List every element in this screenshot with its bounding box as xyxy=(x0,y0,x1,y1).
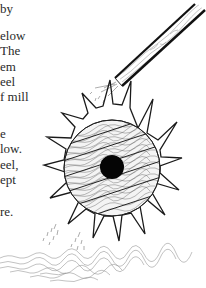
axle-hole xyxy=(100,155,124,179)
falling-water-bottom xyxy=(43,224,84,250)
book-page: by elow The em eel f mill e low. eel, ep… xyxy=(0,0,206,288)
water-chute xyxy=(115,2,206,86)
water-wheel-illustration xyxy=(0,0,206,288)
water-ripples xyxy=(0,243,192,281)
